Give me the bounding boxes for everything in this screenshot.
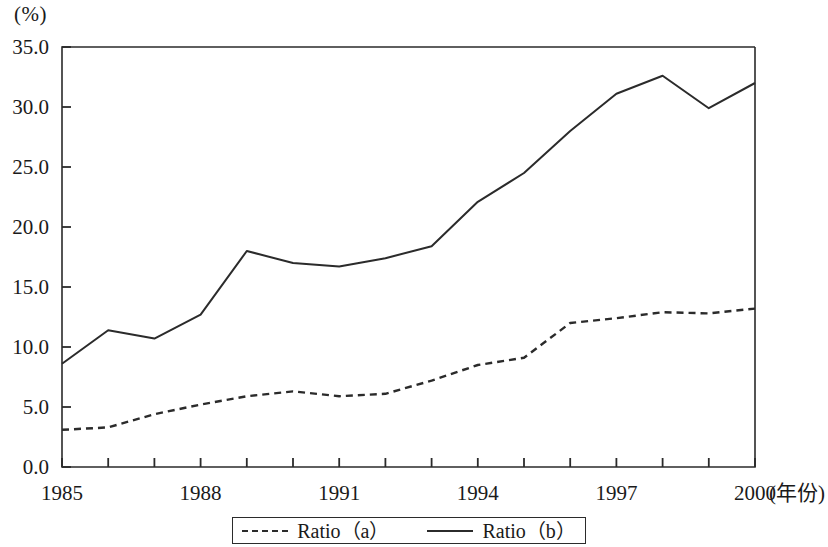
y-axis-tick-label: 30.0 bbox=[0, 97, 49, 118]
x-axis-tick-label: 1994 bbox=[457, 483, 499, 504]
plot-area: 0.05.010.015.020.025.030.035.0 198519881… bbox=[0, 0, 828, 500]
legend-label: Ratio（b） bbox=[482, 521, 575, 541]
y-axis-tick-label: 0.0 bbox=[0, 457, 49, 478]
series-line-a bbox=[62, 309, 755, 430]
x-axis-tick-label: 1988 bbox=[180, 483, 222, 504]
axes bbox=[62, 47, 755, 467]
y-axis-tick-label: 35.0 bbox=[0, 37, 49, 58]
chart-figure: (%) 0.05.010.015.020.025.030.035.0 19851… bbox=[0, 0, 828, 547]
chart-legend: Ratio（a）Ratio（b） bbox=[232, 517, 586, 544]
legend-entry: Ratio（b） bbox=[427, 521, 575, 541]
legend-line-swatch-solid bbox=[427, 530, 473, 532]
x-axis-tick-label: 1991 bbox=[318, 483, 360, 504]
legend-label: Ratio（a） bbox=[297, 521, 389, 541]
y-axis-tick-label: 25.0 bbox=[0, 157, 49, 178]
y-axis-tick-label: 15.0 bbox=[0, 277, 49, 298]
series-line-b bbox=[62, 76, 755, 364]
chart-svg bbox=[0, 0, 828, 500]
legend-entry: Ratio（a） bbox=[242, 521, 389, 541]
y-axis-tick-label: 10.0 bbox=[0, 337, 49, 358]
x-axis-tick-label: 1997 bbox=[595, 483, 637, 504]
tick-marks bbox=[62, 47, 755, 467]
x-axis-tick-label: 1985 bbox=[41, 483, 83, 504]
axis-frame bbox=[62, 47, 755, 467]
x-axis-title: (年份) bbox=[769, 483, 825, 504]
data-series bbox=[62, 76, 755, 430]
y-axis-tick-label: 5.0 bbox=[0, 397, 49, 418]
y-axis-tick-label: 20.0 bbox=[0, 217, 49, 238]
legend-line-swatch-dashed bbox=[242, 530, 288, 532]
